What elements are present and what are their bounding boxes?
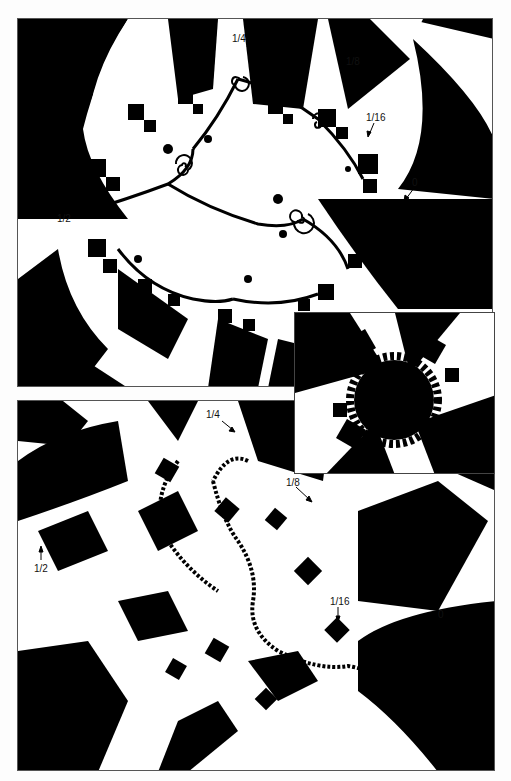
label-bottom-0: 0 xyxy=(438,609,444,620)
label-top-1-8: 1/8 xyxy=(346,56,360,67)
label-top-1-4: 1/4 xyxy=(232,33,246,44)
label-bottom-1-8: 1/8 xyxy=(286,477,300,488)
label-bottom-1-2: 1/2 xyxy=(34,563,48,574)
inset-circle-image xyxy=(295,313,495,474)
label-top-1-2: 1/2 xyxy=(57,213,71,224)
inset-figure-panel xyxy=(294,312,495,474)
label-top-0: 0 xyxy=(412,177,418,188)
label-bottom-1-16: 1/16 xyxy=(330,596,349,607)
label-top-1-16: 1/16 xyxy=(366,112,385,123)
label-bottom-1-4: 1/4 xyxy=(206,409,220,420)
